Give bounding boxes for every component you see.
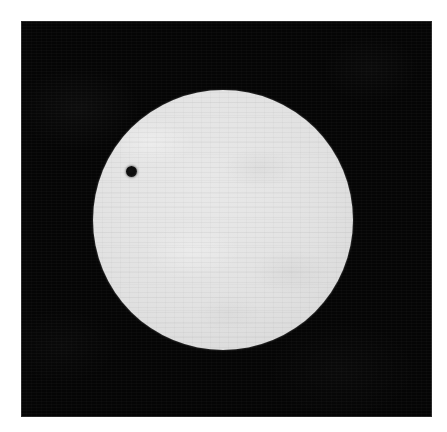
sun-halftone-texture: [93, 90, 353, 350]
photo-plate: [21, 21, 432, 417]
image-subject-label: solar disk with transiting planet silhou…: [0, 0, 1, 1]
sun-limb-darkening: [93, 90, 353, 350]
image-caption: [0, 0, 1, 1]
sun-disk-icon: [93, 90, 353, 350]
sun-granulation-texture: [93, 90, 353, 350]
planet-silhouette-icon: [126, 166, 137, 177]
sun-label: Sun: [0, 0, 1, 1]
transit-position-label: upper left quadrant: [0, 0, 1, 1]
transit-label: transiting planet: [0, 0, 1, 1]
image-canvas: solar disk with transiting planet silhou…: [0, 0, 447, 432]
